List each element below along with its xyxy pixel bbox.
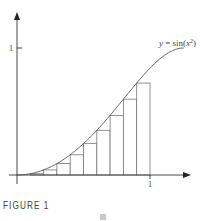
riemann-rectangle <box>44 170 57 175</box>
x-tick-label: 1 <box>148 180 152 189</box>
riemann-rectangle <box>70 155 83 175</box>
cropped-text-fragment <box>100 214 106 220</box>
figure-caption: FIGURE 1 <box>3 199 50 211</box>
x-axis-arrow-icon <box>183 172 191 178</box>
riemann-rectangles <box>30 83 150 175</box>
curve-label: y = sin(x2) <box>158 38 196 48</box>
riemann-rectangle <box>57 164 70 175</box>
y-tick-label: 1 <box>9 44 13 53</box>
riemann-rectangle <box>84 144 97 175</box>
riemann-sum-figure: 1 1 y = sin(x2) <box>0 0 206 221</box>
riemann-rectangle <box>97 130 110 175</box>
riemann-rectangle <box>110 116 123 175</box>
riemann-rectangle <box>137 83 150 175</box>
y-axis-arrow-icon <box>14 12 20 20</box>
riemann-rectangle <box>123 99 136 175</box>
